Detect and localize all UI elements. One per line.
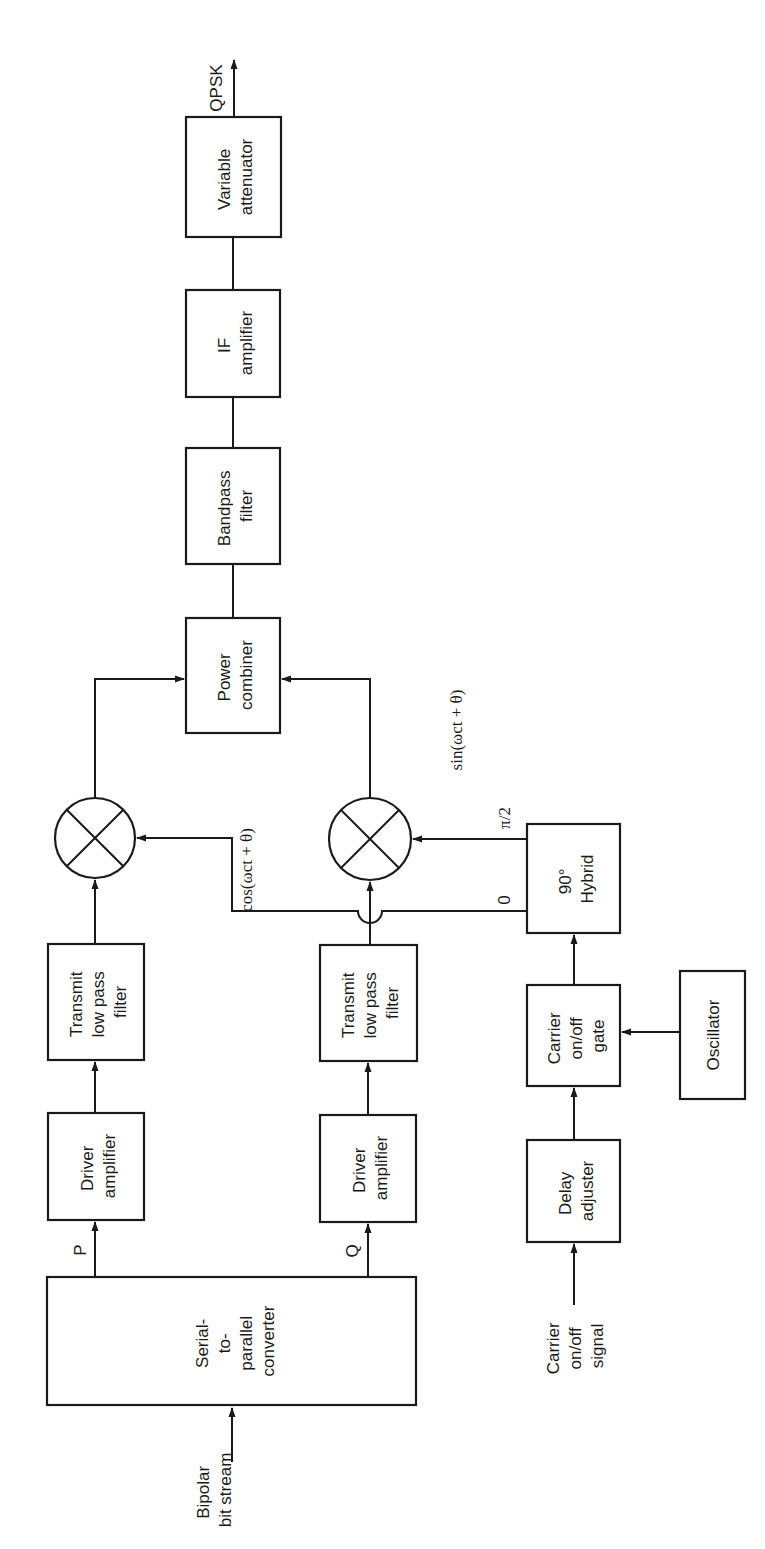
oscillator-block: Oscillator (680, 971, 745, 1099)
variable-attenuator-label-1: Variable (215, 149, 234, 210)
lpf-p-label-3: filter (111, 986, 130, 1018)
oscillator-label: Oscillator (704, 999, 723, 1070)
variable-attenuator-label-2: attenuator (237, 138, 256, 215)
hybrid-90-label-2: Hybrid (578, 854, 597, 903)
input-label-1: Bipolar (194, 1466, 213, 1519)
sin-carrier-label: sin(ωct + θ) (447, 690, 466, 771)
if-amplifier-label-2: amplifier (237, 311, 256, 376)
if-amplifier-block: IF amplifier (186, 290, 280, 397)
bandpass-filter-label-2: filter (237, 490, 256, 522)
serial-to-parallel-block: Serial- to- parallel converter (47, 1277, 416, 1405)
p-branch-label: P (71, 1244, 90, 1255)
driver-amp-q-label-2: amplifier (372, 1136, 391, 1201)
lpf-p-label-1: Transmit (67, 971, 86, 1037)
mixer-p (55, 798, 135, 878)
qpsk-block-diagram: Variable attenuator QPSK IF amplifier Ba… (0, 0, 765, 1549)
serial-to-parallel-label-1: Serial- (193, 1319, 212, 1368)
lpf-q-label-1: Transmit (339, 972, 358, 1038)
driver-amp-q-label-1: Driver (350, 1147, 369, 1193)
delay-adjuster-block: Delay adjuster (527, 1140, 620, 1242)
output-label: QPSK (207, 64, 226, 112)
carrier-gate-label-3: gate (589, 1019, 608, 1052)
bandpass-filter-label-1: Bandpass (215, 471, 234, 547)
driver-amp-p-label-2: amplifier (100, 1134, 119, 1199)
carrier-signal-label-1: Carrier (544, 1322, 563, 1374)
variable-attenuator-block: Variable attenuator (186, 117, 281, 237)
serial-to-parallel-label-4: converter (259, 1305, 278, 1376)
if-amplifier-label-1: IF (215, 338, 234, 353)
bandpass-filter-block: Bandpass filter (186, 448, 280, 564)
carrier-gate-label-1: Carrier (545, 1012, 564, 1064)
driver-amp-q-block: Driver amplifier (320, 1115, 416, 1222)
svg-text:Bipolar bit stream: Bipolar bit stream (194, 1453, 235, 1528)
hybrid-port-90-label: π/2 (495, 807, 514, 829)
lpf-q-block: Transmit low pass filter (320, 945, 417, 1061)
lpf-p-label-2: low pass (89, 971, 108, 1037)
q-branch-label: Q (343, 1244, 362, 1257)
mixer-p-to-combiner-arrow-icon (95, 679, 184, 798)
driver-amp-p-label-1: Driver (78, 1145, 97, 1191)
input-label-2: bit stream (216, 1453, 235, 1528)
svg-text:Carrier on/off signal: Carrier on/off signal (544, 1318, 607, 1375)
delay-adjuster-label-2: adjuster (578, 1160, 597, 1221)
power-combiner-label-2: combiner (237, 640, 256, 710)
carrier-signal-label-3: signal (588, 1324, 607, 1368)
carrier-gate-block: Carrier on/off gate (527, 985, 620, 1086)
carrier-signal-label-2: on/off (566, 1327, 585, 1370)
lpf-p-block: Transmit low pass filter (48, 944, 144, 1060)
hybrid-90-label-1: 90° (556, 869, 575, 895)
power-combiner-block: Power combiner (186, 618, 280, 733)
mixer-q-to-combiner-arrow-icon (282, 679, 370, 798)
delay-adjuster-label-1: Delay (556, 1171, 575, 1215)
driver-amp-p-block: Driver amplifier (48, 1113, 144, 1220)
power-combiner-label-1: Power (215, 653, 234, 702)
serial-to-parallel-label-3: parallel (237, 1316, 256, 1371)
hybrid-90-block: 90° Hybrid (527, 824, 620, 933)
lpf-q-label-2: low pass (361, 972, 380, 1038)
carrier-gate-label-2: on/off (567, 1017, 586, 1060)
hybrid-port-0-label: 0 (495, 895, 514, 904)
serial-to-parallel-label-2: to- (215, 1333, 234, 1353)
lpf-q-label-3: filter (383, 987, 402, 1019)
mixer-q (329, 798, 411, 880)
cos-carrier-label: cos(ωct + θ) (237, 828, 256, 912)
